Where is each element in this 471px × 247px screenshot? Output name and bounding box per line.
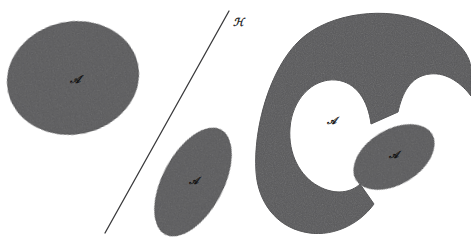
figure-canvas: 𝒜 𝒜 𝒜 𝒜 ℋ <box>0 0 471 247</box>
middle-ellipse-shape <box>139 116 247 247</box>
crescent-shape <box>256 13 471 233</box>
diagonal-line-label: ℋ <box>233 16 246 29</box>
region-left-ellipse: 𝒜 <box>0 10 149 147</box>
left-ellipse-shape <box>0 10 149 147</box>
region-middle-ellipse: 𝒜 <box>139 116 247 247</box>
region-crescent: 𝒜 <box>256 13 471 233</box>
geometry-figure: 𝒜 𝒜 𝒜 𝒜 ℋ <box>0 0 471 247</box>
crescent-label: 𝒜 <box>326 115 340 126</box>
